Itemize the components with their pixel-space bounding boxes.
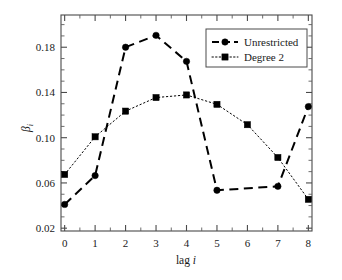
chart-legend[interactable]: UnrestrictedDegree 2 <box>206 29 307 67</box>
y-tick-label: 0.14 <box>36 86 56 98</box>
data-point-marker <box>275 154 281 160</box>
data-point-marker <box>122 108 128 114</box>
y-tick-label: 0.10 <box>36 132 56 144</box>
svg-text:lag i: lag i <box>176 254 196 267</box>
x-tick-label: 8 <box>306 237 312 249</box>
x-tick-label: 7 <box>275 237 281 249</box>
legend-label-2: Degree 2 <box>244 51 284 63</box>
data-point-marker <box>61 201 67 207</box>
x-tick-label: 1 <box>92 237 98 249</box>
y-axis-tick-labels: 0.020.060.100.140.18 <box>36 41 56 234</box>
data-point-marker <box>214 101 220 107</box>
y-tick-label: 0.06 <box>36 177 56 189</box>
x-tick-label: 4 <box>184 237 190 249</box>
data-point-marker <box>305 103 311 109</box>
x-tick-label: 6 <box>245 237 251 249</box>
legend-marker-2 <box>222 54 228 60</box>
y-tick-label: 0.02 <box>36 222 55 234</box>
series-line-2 <box>65 95 309 199</box>
data-point-marker <box>183 92 189 98</box>
chart-canvas: 0.020.060.100.140.18 012345678 βi lag i … <box>0 0 342 280</box>
data-point-marker <box>92 134 98 140</box>
x-axis-title-var: i <box>193 254 196 266</box>
legend-label-1: Unrestricted <box>244 36 299 48</box>
data-point-marker <box>122 44 128 50</box>
x-tick-label: 2 <box>123 237 129 249</box>
x-axis-tick-labels: 012345678 <box>62 237 312 249</box>
y-axis-title: βi <box>20 124 35 133</box>
data-point-marker <box>275 183 281 189</box>
y-tick-label: 0.18 <box>36 41 56 53</box>
x-tick-label: 0 <box>62 237 68 249</box>
data-point-marker <box>153 94 159 100</box>
data-point-marker <box>214 187 220 193</box>
data-point-marker <box>305 196 311 202</box>
chart-figure: 0.020.060.100.140.18 012345678 βi lag i … <box>0 0 342 280</box>
data-point-marker <box>153 32 159 38</box>
data-point-marker <box>92 172 98 178</box>
y-axis-title-subscript: i <box>26 124 35 126</box>
x-axis-title: lag i <box>176 254 196 267</box>
data-point-marker <box>183 58 189 64</box>
data-point-marker <box>62 171 68 177</box>
legend-marker-1 <box>222 39 228 45</box>
x-tick-label: 3 <box>153 237 159 249</box>
svg-text:βi: βi <box>20 124 35 133</box>
x-tick-label: 5 <box>214 237 220 249</box>
data-point-marker <box>244 122 250 128</box>
x-axis-title-prefix: lag <box>176 254 193 267</box>
